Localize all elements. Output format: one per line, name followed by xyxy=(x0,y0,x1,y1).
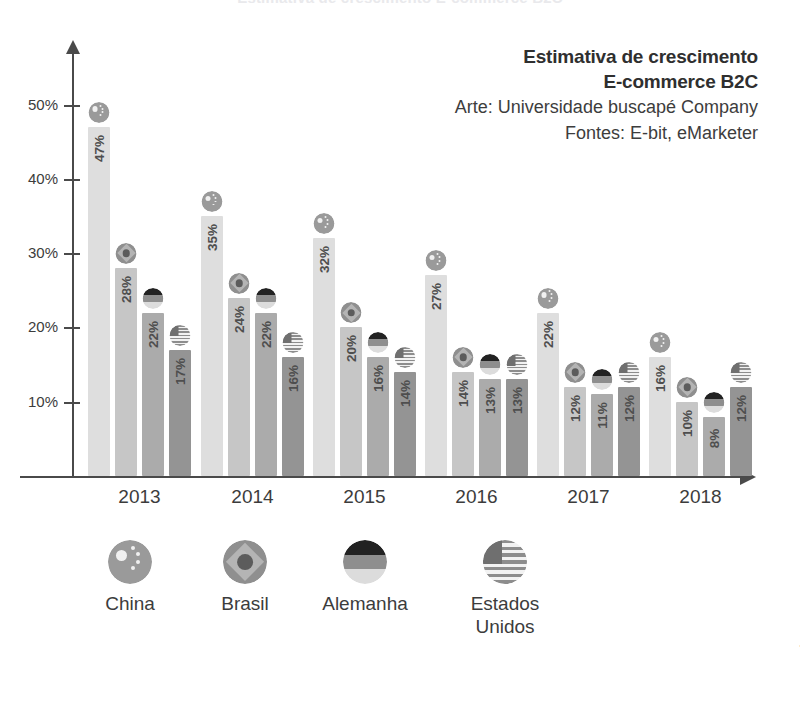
bar[interactable]: 22% xyxy=(537,313,559,476)
bar-value-label: 13% xyxy=(510,387,525,414)
bar-value-label: 16% xyxy=(286,365,301,392)
alemanha-flag-icon xyxy=(704,392,725,413)
china-flag-icon xyxy=(89,102,110,123)
bar-flag-marker xyxy=(619,362,640,383)
bar-flag-marker xyxy=(395,347,416,368)
brasil-flag-icon xyxy=(453,347,474,368)
alemanha-flag-icon xyxy=(480,354,501,375)
bar[interactable]: 12% xyxy=(564,387,586,476)
bar-flag-marker xyxy=(592,369,613,390)
bar-value-label: 13% xyxy=(483,387,498,414)
bar-value-label: 12% xyxy=(734,395,749,422)
bar[interactable]: 35% xyxy=(201,216,223,476)
legend-item[interactable]: Brasil xyxy=(180,540,310,615)
brasil-flag-icon xyxy=(229,273,250,294)
bar-value-label: 20% xyxy=(344,335,359,362)
bar-value-label: 12% xyxy=(622,395,637,422)
bar-flag-marker xyxy=(453,347,474,368)
bar[interactable]: 22% xyxy=(142,313,164,476)
x-axis-label: 2017 xyxy=(534,486,644,508)
estados-unidos-flag-icon xyxy=(619,362,640,383)
x-axis-label: 2018 xyxy=(646,486,756,508)
bar-value-label: 12% xyxy=(568,395,583,422)
bar[interactable]: 11% xyxy=(591,394,613,476)
bar[interactable]: 14% xyxy=(394,372,416,476)
china-flag-icon xyxy=(426,250,447,271)
bar-value-label: 28% xyxy=(119,276,134,303)
bar[interactable]: 27% xyxy=(425,275,447,476)
y-axis-tick xyxy=(64,105,80,107)
y-axis-tick xyxy=(64,327,80,329)
legend-item-label: Alemanha xyxy=(300,592,430,615)
bar-flag-marker xyxy=(731,362,752,383)
y-axis-tick-label: 50% xyxy=(2,96,58,113)
brasil-flag-icon xyxy=(341,302,362,323)
legend-flag xyxy=(483,540,527,584)
alemanha-flag-icon xyxy=(368,332,389,353)
bar-flag-marker xyxy=(256,288,277,309)
bar[interactable]: 17% xyxy=(169,350,191,476)
y-axis-tick-label: 30% xyxy=(2,244,58,261)
alemanha-flag-icon xyxy=(343,540,387,584)
bar-value-label: 22% xyxy=(259,321,274,348)
bar[interactable]: 13% xyxy=(479,379,501,476)
bar-value-label: 35% xyxy=(205,224,220,251)
bar-flag-marker xyxy=(202,191,223,212)
alemanha-flag-icon xyxy=(256,288,277,309)
china-flag-icon xyxy=(650,332,671,353)
y-axis-arrow-icon xyxy=(66,40,80,54)
brasil-flag-icon xyxy=(116,243,137,264)
bar[interactable]: 16% xyxy=(282,357,304,476)
bar[interactable]: 12% xyxy=(730,387,752,476)
y-axis-tick xyxy=(64,402,80,404)
bar-value-label: 32% xyxy=(317,246,332,273)
bar-flag-marker xyxy=(704,392,725,413)
bar[interactable]: 16% xyxy=(367,357,389,476)
y-axis-tick xyxy=(64,179,80,181)
bar[interactable]: 28% xyxy=(115,268,137,476)
bar-flag-marker xyxy=(170,325,191,346)
bar-value-label: 16% xyxy=(653,365,668,392)
y-axis-line xyxy=(72,50,74,478)
bar-value-label: 10% xyxy=(680,410,695,437)
brasil-flag-icon xyxy=(565,362,586,383)
estados-unidos-flag-icon xyxy=(731,362,752,383)
x-axis-label: 2013 xyxy=(85,486,195,508)
legend-item[interactable]: EstadosUnidos xyxy=(440,540,570,638)
bar[interactable]: 32% xyxy=(313,238,335,476)
legend-item[interactable]: China xyxy=(65,540,195,615)
bar-value-label: 16% xyxy=(371,365,386,392)
bar[interactable]: 22% xyxy=(255,313,277,476)
brasil-flag-icon xyxy=(223,540,267,584)
bar[interactable]: 13% xyxy=(506,379,528,476)
legend-flag xyxy=(108,540,152,584)
estados-unidos-flag-icon xyxy=(483,540,527,584)
bar-flag-marker xyxy=(538,288,559,309)
chart-legend: ChinaBrasilAlemanhaEstadosUnidos xyxy=(0,540,760,670)
bar-value-label: 24% xyxy=(232,306,247,333)
bar-flag-marker xyxy=(89,102,110,123)
bar[interactable]: 10% xyxy=(676,402,698,476)
legend-flag xyxy=(343,540,387,584)
bar[interactable]: 14% xyxy=(452,372,474,476)
bar-value-label: 14% xyxy=(398,380,413,407)
bar-value-label: 14% xyxy=(456,380,471,407)
bar-value-label: 8% xyxy=(707,428,722,448)
bar[interactable]: 24% xyxy=(228,298,250,476)
x-axis-label: 2016 xyxy=(422,486,532,508)
y-axis-tick-label: 40% xyxy=(2,170,58,187)
x-axis-label: 2014 xyxy=(198,486,308,508)
bar[interactable]: 47% xyxy=(88,127,110,476)
y-axis-tick xyxy=(64,253,80,255)
bar[interactable]: 8% xyxy=(703,417,725,476)
bar[interactable]: 12% xyxy=(618,387,640,476)
bar[interactable]: 16% xyxy=(649,357,671,476)
estados-unidos-flag-icon xyxy=(170,325,191,346)
estados-unidos-flag-icon xyxy=(395,347,416,368)
china-flag-icon xyxy=(202,191,223,212)
bar-value-label: 47% xyxy=(92,135,107,162)
legend-item[interactable]: Alemanha xyxy=(300,540,430,615)
bar-flag-marker xyxy=(341,302,362,323)
alemanha-flag-icon xyxy=(592,369,613,390)
bar[interactable]: 20% xyxy=(340,327,362,476)
